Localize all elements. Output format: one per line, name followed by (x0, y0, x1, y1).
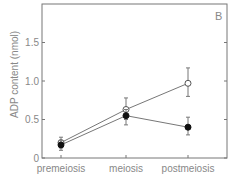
y-tick-label: 0 (33, 153, 39, 164)
x-tick-label: meiosis (109, 163, 143, 174)
x-tick-label: premeiosis (37, 163, 85, 174)
series-group (58, 68, 191, 150)
plot-frame (42, 4, 227, 158)
x-tick-label: postmeiosis (162, 163, 215, 174)
chart: B 00.51.01.5 premeiosismeiosispostmeiosi… (0, 0, 240, 179)
series-line (61, 116, 188, 145)
y-axis-label: ADP content (nmol) (9, 31, 20, 118)
open-marker (185, 80, 191, 86)
y-tick-label: 1.0 (25, 76, 39, 87)
panel-label: B (215, 10, 222, 22)
y-tick-label: 0.5 (25, 114, 39, 125)
filled-marker (123, 113, 129, 119)
y-tick-label: 1.5 (25, 37, 39, 48)
filled-marker (58, 142, 64, 148)
filled-marker (185, 124, 191, 130)
